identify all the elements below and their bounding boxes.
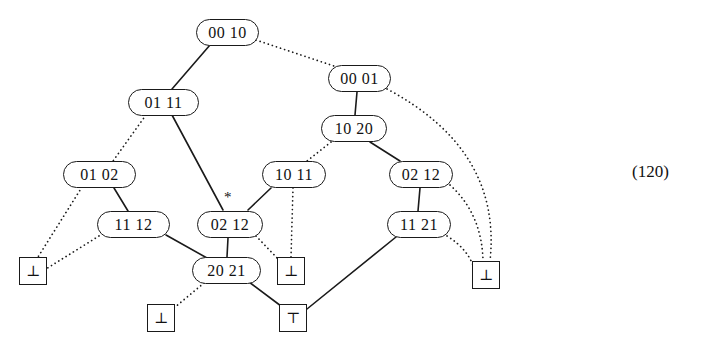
edge-solid-n_10_11-to-n_02_12_l [248,188,271,210]
terminal-node-t_top_1[interactable]: ⊤ [279,304,307,332]
decision-node-label: 10 20 [335,120,374,138]
edge-dotted-n_10_20-to-n_10_11 [307,142,331,161]
edge-dotted-n_11_21-to-t_bot_3 [447,236,474,268]
decision-node-label: 01 02 [80,166,119,184]
terminal-node-label: ⊤ [286,311,300,326]
edge-dotted-n_02_12_r-to-t_bot_3 [450,185,483,261]
star-annotation: * [224,190,232,205]
decision-node-n_20_21[interactable]: 20 21 [192,257,261,284]
decision-node-label: 00 01 [340,70,379,88]
decision-node-n_02_12_r[interactable]: 02 12 [389,161,453,188]
terminal-node-t_bot_4[interactable]: ⊥ [147,304,175,332]
terminal-node-label: ⊥ [479,268,493,283]
edge-dotted-n_20_21-to-t_bot_4 [174,283,204,308]
edge-solid-n_01_02-to-n_11_12 [114,188,128,211]
bdd-figure: 00 1001 1100 0110 2001 0210 1102 1211 12… [0,0,724,344]
edge-dotted-n_10_11-to-t_bot_2 [291,188,293,257]
terminal-node-label: ⊥ [154,311,168,326]
edge-solid-n_11_12-to-n_20_21 [166,235,207,258]
edge-dotted-n_00_10-to-n_00_01 [256,40,334,66]
decision-node-n_10_20[interactable]: 10 20 [321,115,387,142]
decision-node-n_00_10[interactable]: 00 10 [196,19,259,46]
decision-node-label: 20 21 [207,262,246,280]
terminal-node-label: ⊥ [26,264,40,279]
decision-node-label: 02 12 [211,216,250,234]
terminal-node-label: ⊥ [284,264,298,279]
edge-solid-n_10_20-to-n_02_12_r [370,142,400,161]
edge-solid-n_00_10-to-n_01_11 [172,45,210,89]
decision-node-n_10_11[interactable]: 10 11 [262,161,326,188]
decision-node-label: 10 11 [275,166,313,184]
edge-solid-n_01_11-to-n_02_12_l [172,115,223,210]
edge-solid-n_02_12_l-to-n_20_21 [227,238,228,257]
decision-node-label: 11 21 [400,216,438,234]
decision-node-n_00_01[interactable]: 00 01 [328,65,391,92]
edge-dotted-n_11_12-to-t_bot_1 [46,236,99,269]
terminal-node-t_bot_1[interactable]: ⊥ [19,257,47,285]
edge-dotted-n_02_12_l-to-t_bot_2 [256,236,279,260]
decision-node-n_01_02[interactable]: 01 02 [63,161,136,188]
decision-node-label: 00 10 [208,24,247,42]
decision-node-label: 11 12 [115,216,153,234]
decision-node-n_11_21[interactable]: 11 21 [387,211,451,238]
equation-number: (120) [632,162,669,182]
decision-node-label: 02 12 [402,166,441,184]
terminal-node-t_bot_2[interactable]: ⊥ [277,257,305,285]
edge-solid-n_11_21-to-t_top_1 [307,237,396,309]
decision-node-n_02_12_l[interactable]: 02 12 [197,211,263,238]
edge-dotted-n_01_02-to-t_bot_1 [38,187,82,257]
terminal-node-t_bot_3[interactable]: ⊥ [472,261,500,289]
edge-solid-n_02_12_r-to-n_11_21 [418,188,420,211]
decision-node-label: 01 11 [145,94,183,112]
decision-node-n_01_11[interactable]: 01 11 [128,89,199,116]
edge-solid-n_20_21-to-t_top_1 [249,282,281,306]
decision-node-n_11_12[interactable]: 11 12 [97,211,170,238]
edge-dotted-n_01_11-to-n_01_02 [113,115,146,161]
edge-solid-n_00_01-to-n_10_20 [355,92,357,115]
